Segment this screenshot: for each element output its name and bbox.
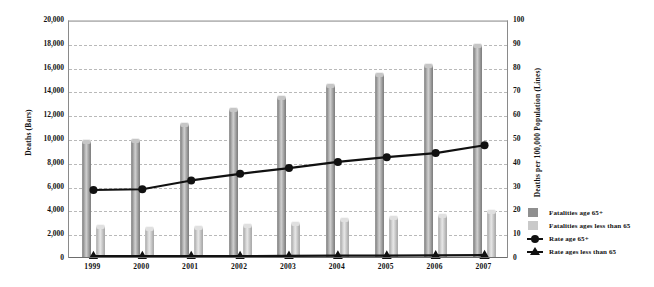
y-axis-right-tick: 70 <box>513 87 553 95</box>
y-axis-right-tick: 60 <box>513 111 553 119</box>
legend-item[interactable]: Rate ages less than 65 <box>527 245 653 258</box>
y-axis-right-tick: 80 <box>513 64 553 72</box>
y-axis-left-tick: 14,000 <box>24 87 64 95</box>
x-axis-labels: 199920002001200220032004200520062007 <box>68 262 508 278</box>
line-marker-circle <box>432 149 440 157</box>
legend-item[interactable]: Fatalities age 65+ <box>527 206 653 219</box>
y-axis-right-tick: 50 <box>513 135 553 143</box>
legend-key-swatch <box>527 219 543 232</box>
x-axis-tick-label: 2006 <box>427 262 443 271</box>
legend-key-line <box>527 232 543 245</box>
line-marker-circle <box>481 141 489 149</box>
y-axis-left-tick: 20,000 <box>24 16 64 24</box>
x-axis-tick-label: 2005 <box>378 262 394 271</box>
line-marker-circle <box>334 158 342 166</box>
x-axis-tick-label: 2002 <box>231 262 247 271</box>
y-axis-left-tick: 18,000 <box>24 40 64 48</box>
y-axis-right-tick: 100 <box>513 16 553 24</box>
y-axis-left-tick: 10,000 <box>24 135 64 143</box>
x-axis-tick-label: 2004 <box>329 262 345 271</box>
x-axis-tick-label: 2000 <box>133 262 149 271</box>
legend-key-swatch <box>527 206 543 219</box>
y-axis-left-ticks: 02,0004,0006,0008,00010,00012,00014,0001… <box>22 0 64 287</box>
line-marker-circle <box>89 186 97 194</box>
legend-item[interactable]: Fatalities ages less than 65 <box>527 219 653 232</box>
x-axis-tick-label: 2001 <box>182 262 198 271</box>
line-marker-circle <box>285 164 293 172</box>
legend-item[interactable]: Rate age 65+ <box>527 232 653 245</box>
legend-key-line <box>527 245 543 258</box>
y-axis-left-tick: 12,000 <box>24 111 64 119</box>
y-axis-left-tick: 4,000 <box>24 206 64 214</box>
x-axis-tick-label: 2007 <box>475 262 491 271</box>
legend-marker-circle-icon <box>531 235 539 243</box>
line-marker-circle <box>187 176 195 184</box>
x-axis-tick-label: 2003 <box>280 262 296 271</box>
y-axis-right-tick: 40 <box>513 159 553 167</box>
plot-area <box>68 20 508 258</box>
legend-item-label: Fatalities age 65+ <box>549 209 603 217</box>
y-axis-right-tick: 90 <box>513 40 553 48</box>
legend-item-label: Rate age 65+ <box>549 235 589 243</box>
legend-swatch-65plus-icon <box>528 208 538 217</box>
y-axis-right-tick: 30 <box>513 183 553 191</box>
combo-chart: Deaths (Bars) Deaths per 100,000 Populat… <box>0 0 654 287</box>
line-series-layer <box>69 21 509 259</box>
y-axis-left-tick: 0 <box>24 254 64 262</box>
y-axis-left-tick: 8,000 <box>24 159 64 167</box>
y-axis-left-tick: 16,000 <box>24 64 64 72</box>
line-marker-circle <box>236 170 244 178</box>
x-axis-line <box>69 257 507 258</box>
line-marker-circle <box>383 153 391 161</box>
y-axis-left-tick: 6,000 <box>24 183 64 191</box>
legend-swatch-under65-icon <box>528 221 538 230</box>
legend-item-label: Fatalities ages less than 65 <box>549 222 630 230</box>
legend-item-label: Rate ages less than 65 <box>549 248 616 256</box>
x-axis-tick-label: 1999 <box>84 262 100 271</box>
chart-legend: Fatalities age 65+Fatalities ages less t… <box>527 206 653 258</box>
legend-marker-triangle-icon <box>530 247 540 255</box>
line-marker-circle <box>138 185 146 193</box>
y-axis-left-tick: 2,000 <box>24 230 64 238</box>
